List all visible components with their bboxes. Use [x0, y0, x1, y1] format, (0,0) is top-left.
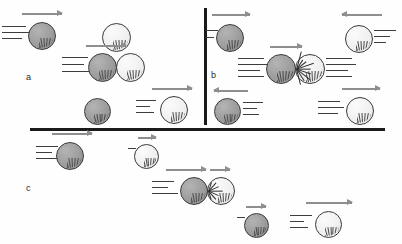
hatch-line — [176, 112, 178, 122]
speed-line — [62, 57, 88, 58]
hatch-line — [196, 193, 198, 203]
speed-line — [238, 76, 264, 77]
arrow-head-icon — [341, 11, 347, 17]
speed-line — [237, 217, 245, 218]
ball-hatching — [356, 41, 370, 51]
speed-line — [136, 112, 154, 113]
arrow-shaft — [214, 90, 248, 92]
ball-light-moving-slow-right — [134, 144, 159, 169]
speed-line — [326, 58, 352, 59]
panel-label-c: c — [26, 183, 31, 193]
ball-dark-in-contact — [180, 177, 208, 205]
speed-line — [374, 36, 390, 37]
speed-line — [374, 30, 396, 31]
hatch-line — [289, 72, 292, 82]
speed-line — [152, 193, 178, 194]
panel-label-a: a — [26, 72, 31, 82]
speed-line — [62, 71, 90, 72]
arrow-head-icon — [261, 203, 267, 209]
ball-light-sped-up — [315, 211, 342, 238]
speed-line — [136, 100, 156, 101]
ball-dark-in-contact — [266, 54, 296, 84]
speed-line — [374, 42, 386, 43]
ball-hatching — [127, 70, 142, 80]
arrow-shaft — [166, 169, 206, 171]
speed-line — [206, 30, 218, 31]
ball-hatching — [99, 70, 114, 80]
arrow-head-icon — [57, 10, 63, 16]
ball-dark-moving-right — [216, 24, 244, 52]
ball-hatching — [171, 112, 185, 122]
speed-line — [243, 114, 259, 115]
arrow-head-icon — [245, 11, 251, 17]
hatch-line — [104, 70, 106, 80]
arrow-head-icon — [375, 85, 381, 91]
speed-line — [238, 70, 260, 71]
arrow-shaft — [86, 45, 126, 47]
ball-dark-stopped — [84, 98, 111, 125]
speed-line — [2, 26, 26, 27]
horizontal-divider — [30, 128, 385, 131]
vertical-divider — [204, 8, 207, 125]
arrow-head-icon — [213, 87, 219, 93]
ball-hatching — [224, 114, 238, 124]
speed-line — [326, 76, 352, 77]
speed-line — [206, 37, 214, 38]
ball-light-moving-right — [160, 96, 188, 124]
ball-dark-rebounding-left — [214, 98, 241, 125]
speed-line — [290, 221, 304, 222]
speed-line — [36, 152, 52, 153]
ball-light-in-contact — [116, 53, 145, 82]
speed-line — [238, 58, 264, 59]
ball-hatching — [94, 114, 108, 124]
ball-hatching — [191, 193, 205, 203]
arrow-head-icon — [121, 42, 127, 48]
arrow-shaft — [22, 13, 62, 15]
speed-line — [326, 70, 348, 71]
speed-line — [36, 146, 58, 147]
ball-dark-in-contact — [88, 53, 117, 82]
arrow-shaft — [152, 88, 192, 90]
ball-light-moving-left — [345, 25, 373, 53]
speed-line — [152, 187, 168, 188]
speed-line — [136, 106, 150, 107]
speed-line — [318, 107, 344, 108]
panel-label-b: b — [211, 70, 216, 80]
ball-dark-moving-fast-right — [56, 142, 84, 170]
hatch-line — [362, 113, 364, 123]
hatch-line — [223, 193, 225, 203]
arrow-head-icon — [187, 85, 193, 91]
ball-hatching — [325, 227, 339, 237]
hatch-line — [318, 72, 321, 82]
speed-line — [238, 64, 268, 65]
ball-hatching — [227, 40, 241, 50]
ball-dark-moving-right — [28, 22, 56, 50]
speed-line — [62, 64, 84, 65]
hatch-line — [44, 38, 46, 48]
hatch-line — [232, 40, 234, 50]
speed-line — [243, 102, 263, 103]
collision-diagram: abc — [0, 0, 402, 244]
arrow-head-icon — [297, 43, 303, 49]
ball-hatching — [357, 113, 371, 123]
speed-line — [243, 108, 257, 109]
ball-hatching — [39, 38, 53, 48]
hatch-line — [72, 158, 74, 168]
ball-dark-slowed — [244, 213, 269, 238]
arrow-shaft — [306, 202, 352, 204]
arrow-shaft — [342, 14, 382, 16]
ball-hatching — [144, 158, 157, 167]
speed-line — [290, 227, 308, 228]
arrow-head-icon — [347, 199, 353, 205]
speed-line — [318, 113, 338, 114]
speed-line — [152, 181, 174, 182]
arrow-shaft — [52, 133, 92, 135]
speed-line — [318, 101, 340, 102]
speed-line — [2, 38, 22, 39]
arrow-head-icon — [201, 166, 207, 172]
ball-hatching — [254, 227, 267, 236]
hatch-line — [361, 41, 363, 51]
ball-hatching — [277, 71, 292, 82]
ball-hatching — [67, 158, 81, 168]
speed-line — [290, 215, 312, 216]
